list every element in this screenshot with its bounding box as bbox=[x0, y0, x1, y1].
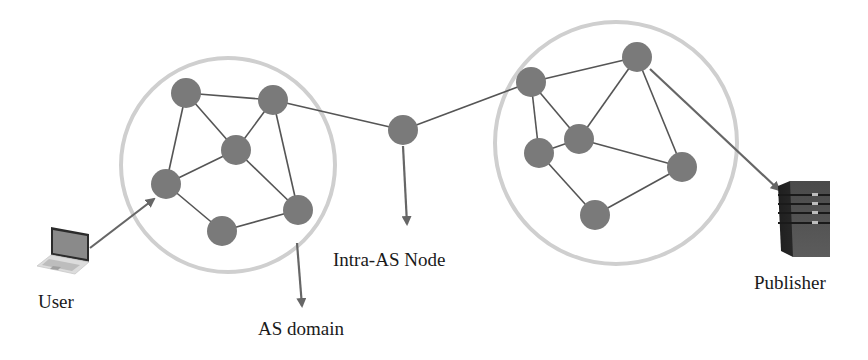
router-node-L4 bbox=[151, 169, 181, 199]
router-node-L5 bbox=[283, 195, 313, 225]
router-node-R5 bbox=[667, 152, 697, 182]
laptop-icon bbox=[37, 227, 89, 274]
router-node-L6 bbox=[207, 216, 237, 246]
router-node-R4 bbox=[524, 138, 554, 168]
router-node-L2 bbox=[258, 85, 288, 115]
link-R3-R5 bbox=[579, 139, 682, 167]
publisher-label: Publisher bbox=[754, 272, 826, 293]
user-label: User bbox=[38, 291, 75, 312]
router-node-L1 bbox=[171, 78, 201, 108]
server-icon bbox=[778, 181, 830, 257]
link-L2-X bbox=[273, 100, 403, 130]
intra-as-node bbox=[388, 115, 418, 145]
router-node-R3 bbox=[564, 124, 594, 154]
router-node-R2 bbox=[622, 42, 652, 72]
router-node-R1 bbox=[516, 67, 546, 97]
link-X-R1 bbox=[403, 82, 531, 130]
network-diagram: User AS domain Intra-AS Node Publisher bbox=[0, 0, 868, 360]
router-node-R6 bbox=[580, 200, 610, 230]
link-L2-L5 bbox=[273, 100, 298, 210]
nodes bbox=[151, 42, 697, 246]
router-node-L3 bbox=[221, 135, 251, 165]
user-to-domain-arrow bbox=[90, 199, 154, 248]
as-domain-label-arrow bbox=[297, 243, 302, 306]
intra-as-node-label: Intra-AS Node bbox=[333, 249, 445, 270]
link-R2-R5 bbox=[637, 57, 682, 167]
as-domain-label: AS domain bbox=[258, 318, 345, 339]
intra-node-label-arrow bbox=[403, 146, 407, 224]
